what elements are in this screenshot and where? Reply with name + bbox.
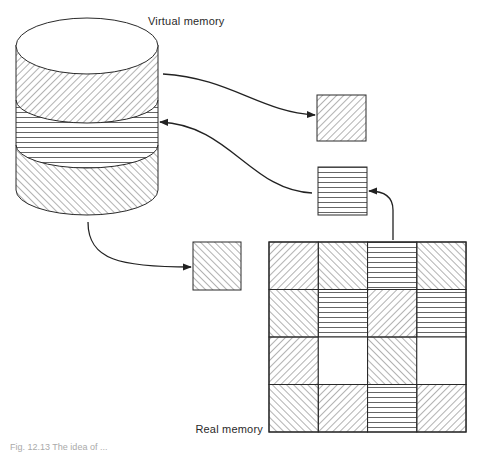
disk-top [16,18,158,74]
free-page-frame [318,337,367,385]
page-frame [417,385,466,433]
transit-page-load [193,242,241,290]
page-frame [269,385,318,433]
figure-caption: Fig. 12.13 The idea of ... [10,442,107,452]
arrow-real-to-transit [369,191,393,240]
arrow-page-in [160,122,312,193]
page-frame [318,242,367,290]
virtual-memory-disk [16,18,158,230]
page-frame [318,290,367,338]
page-frame [368,337,417,385]
page-frame [269,290,318,338]
free-page-frame [417,337,466,385]
transit-page-out [317,95,366,141]
transit-page-in [318,167,367,215]
page-frame [269,337,318,385]
virtual-memory-label: Virtual memory [148,15,225,27]
page-frame [269,242,318,290]
page-frame [417,290,466,338]
real-memory-grid [269,242,466,432]
real-memory-label: Real memory [195,423,263,435]
page-frame [368,242,417,290]
page-frame [417,242,466,290]
page-frame [368,385,417,433]
arrow-page-load [88,222,191,267]
arrow-page-out [163,74,315,115]
page-frame [318,385,367,433]
page-frame [368,290,417,338]
